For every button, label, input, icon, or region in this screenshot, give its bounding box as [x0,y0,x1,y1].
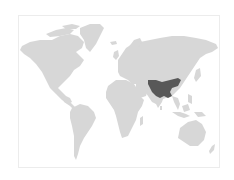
british-isles [113,50,119,60]
north-america [20,34,84,104]
madagascar [140,116,143,126]
borneo [182,104,190,112]
sri-lanka [160,106,162,110]
australia [178,120,206,146]
arctic-islands-2 [62,24,80,29]
land-masses [20,24,218,160]
japan [194,68,201,82]
new-zealand [209,144,215,154]
southeast-asia [172,96,180,110]
iceland [110,41,117,45]
philippines [188,94,192,104]
new-guinea [194,112,206,117]
south-america [70,104,96,160]
greenland [80,24,104,52]
indonesia [172,112,190,118]
world-map [0,0,234,180]
